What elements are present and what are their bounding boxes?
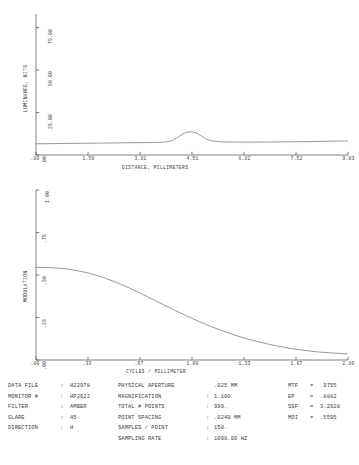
x-tick-label: 6.02 (239, 157, 251, 162)
summary-row-label: MOI (288, 413, 310, 424)
summary-row: MONITOR #:HP2622 (8, 392, 113, 403)
summary-row: TOTAL # POINTS:999. (118, 402, 283, 413)
summary-row-separator: = (310, 381, 320, 392)
summary-row-separator: : (206, 413, 214, 424)
bottom-chart-y-axis-title: MODULATION (24, 270, 29, 302)
x-tick-label: 1.50 (83, 157, 95, 162)
y-tick-label: 25.00 (49, 114, 54, 129)
x-tick-label: 9.03 (343, 157, 355, 162)
y-tick-label: .50 (43, 276, 48, 285)
summary-row-separator: : (206, 434, 214, 445)
y-tick-label: 1.00 (46, 191, 51, 203)
summary-row-value: .9755 (320, 381, 337, 392)
summary-row-value: .025 MM (214, 381, 237, 392)
summary-row-separator: : (206, 423, 214, 434)
summary-row-value: 999. (214, 402, 227, 413)
luminance-profile-chart: LUMINANCE, NITS DISTANCE, MILLIMETERS .0… (0, 0, 359, 175)
y-tick-label: .00 (43, 361, 48, 370)
x-tick-label: 1.33 (239, 362, 251, 367)
bottom-chart-x-axis-title: CYCLES / MILLIMETER (126, 370, 186, 375)
summary-column-optics: PHYSICAL APERTURE.025 MMMAGNIFICATION:1.… (118, 381, 283, 445)
x-tick-label: 3.01 (135, 157, 147, 162)
summary-row: DIRECTION:H (8, 423, 113, 434)
top-chart-x-axis-title: DISTANCE, MILLIMETERS (122, 166, 188, 171)
summary-row: SSF=3.2928 (288, 402, 358, 413)
summary-row-label: SAMPLING RATE (118, 434, 206, 445)
summary-row-label: DATA FILE (8, 381, 60, 392)
summary-row: GLARE:45 (8, 413, 113, 424)
summary-row-value: 3.2928 (320, 402, 340, 413)
measurement-summary-panel: DATA FILE:H22978MONITOR #:HP2622FILTER:A… (0, 378, 359, 465)
summary-row-value: 150. (214, 423, 227, 434)
summary-row-label: GLARE (8, 413, 60, 424)
summary-row: POINT SPACING:.0249 MM (118, 413, 283, 424)
summary-row-separator: : (60, 402, 70, 413)
summary-row-separator: : (206, 402, 214, 413)
y-tick-label: .25 (43, 319, 48, 328)
mtf-curve-chart: MODULATION CYCLES / MILLIMETER .00.33.67… (0, 182, 359, 378)
summary-row: PHYSICAL APERTURE.025 MM (118, 381, 283, 392)
summary-row: MAGNIFICATION:1.100 (118, 392, 283, 403)
summary-row-value: HP2622 (70, 392, 90, 403)
summary-row-label: POINT SPACING (118, 413, 206, 424)
summary-row-separator: = (310, 402, 320, 413)
summary-row-separator: = (310, 413, 320, 424)
summary-row-value: 1000.00 HZ (214, 434, 247, 445)
x-tick-label: 1.67 (291, 362, 303, 367)
y-tick-label: .75 (43, 234, 48, 243)
x-tick-label: 4.51 (187, 157, 199, 162)
x-tick-label: 2.00 (343, 362, 355, 367)
summary-row-separator: : (60, 413, 70, 424)
summary-row-label: DIRECTION (8, 423, 60, 434)
summary-row-value: AMBER (70, 402, 87, 413)
x-tick-label: 1.00 (187, 362, 199, 367)
summary-row-separator: : (60, 423, 70, 434)
summary-row-label: MONITOR # (8, 392, 60, 403)
summary-row: FILTER:AMBER (8, 402, 113, 413)
summary-row-value: .8882 (320, 392, 337, 403)
summary-row-separator: : (206, 392, 214, 403)
summary-row-label: PHYSICAL APERTURE (118, 381, 206, 392)
summary-row-value: 1.100 (214, 392, 231, 403)
summary-row-value: 45 (70, 413, 77, 424)
summary-row-value: H22978 (70, 381, 90, 392)
summary-row-separator: = (310, 392, 320, 403)
y-tick-label: .00 (43, 156, 48, 165)
summary-column-metrics: MTF=.9755EP=.8882SSF=3.2928MOI=.5595 (288, 381, 358, 423)
top-chart-canvas (0, 0, 359, 175)
summary-row-label: FILTER (8, 402, 60, 413)
x-tick-label: .00 (31, 362, 40, 367)
summary-row: SAMPLING RATE:1000.00 HZ (118, 434, 283, 445)
summary-row-value: H (70, 423, 73, 434)
summary-row: SAMPLES / POINT:150. (118, 423, 283, 434)
summary-row: MOI=.5595 (288, 413, 358, 424)
summary-row-label: SAMPLES / POINT (118, 423, 206, 434)
y-tick-label: 75.00 (49, 29, 54, 44)
summary-row-value: .5595 (320, 413, 337, 424)
summary-row-separator: : (60, 381, 70, 392)
summary-row-label: EP (288, 392, 310, 403)
summary-row-value: .0249 MM (214, 413, 241, 424)
data-curve (36, 267, 348, 353)
x-tick-label: .00 (31, 157, 40, 162)
summary-column-acquisition: DATA FILE:H22978MONITOR #:HP2622FILTER:A… (8, 381, 113, 434)
bottom-chart-canvas (0, 182, 359, 378)
summary-row-label: MAGNIFICATION (118, 392, 206, 403)
top-chart-y-axis-title: LUMINANCE, NITS (24, 65, 29, 112)
summary-row: DATA FILE:H22978 (8, 381, 113, 392)
data-curve (36, 132, 348, 144)
x-tick-label: 7.52 (291, 157, 303, 162)
x-tick-label: .33 (83, 362, 92, 367)
summary-row-label: SSF (288, 402, 310, 413)
summary-row: MTF=.9755 (288, 381, 358, 392)
summary-row-label: MTF (288, 381, 310, 392)
summary-row: EP=.8882 (288, 392, 358, 403)
x-tick-label: .67 (135, 362, 144, 367)
summary-row-label: TOTAL # POINTS (118, 402, 206, 413)
y-tick-label: 50.00 (49, 71, 54, 86)
summary-row-separator: : (60, 392, 70, 403)
